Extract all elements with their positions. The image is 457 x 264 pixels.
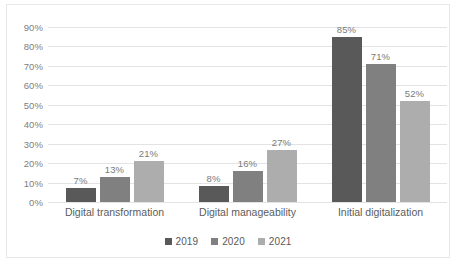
bar-value-label: 52% bbox=[405, 88, 424, 99]
legend-label: 2020 bbox=[222, 236, 245, 247]
x-axis-category-label: Digital manageability bbox=[199, 206, 296, 218]
chart-container: 90%80%70%60%50%40%30%20%10%0% 7%13%21%Di… bbox=[6, 4, 450, 258]
bar-item[interactable]: 21% bbox=[134, 27, 164, 202]
y-axis-tick-label: 60% bbox=[24, 80, 43, 91]
x-axis-category-label: Digital transformation bbox=[65, 206, 164, 218]
legend-item[interactable]: 2020 bbox=[211, 236, 245, 247]
bar[interactable] bbox=[199, 186, 229, 202]
bar[interactable] bbox=[134, 161, 164, 202]
bar-value-label: 8% bbox=[207, 173, 221, 184]
chart-legend: 201920202021 bbox=[7, 236, 449, 247]
bar-group: 85%71%52%Initial digitalization bbox=[314, 27, 447, 202]
y-axis-tick-label: 70% bbox=[24, 60, 43, 71]
legend-swatch-icon bbox=[211, 238, 218, 245]
bar-value-label: 85% bbox=[337, 24, 356, 35]
y-axis-tick-label: 0% bbox=[29, 197, 43, 208]
legend-label: 2019 bbox=[176, 236, 199, 247]
y-axis-tick-label: 30% bbox=[24, 138, 43, 149]
bar-item[interactable]: 27% bbox=[267, 27, 297, 202]
y-axis-tick-label: 50% bbox=[24, 99, 43, 110]
bar[interactable] bbox=[66, 188, 96, 202]
bar[interactable] bbox=[332, 37, 362, 202]
bar-value-label: 13% bbox=[105, 164, 124, 175]
bar-item[interactable]: 52% bbox=[400, 27, 430, 202]
bar-item[interactable]: 85% bbox=[332, 27, 362, 202]
legend-item[interactable]: 2019 bbox=[165, 236, 199, 247]
bar-item[interactable]: 13% bbox=[100, 27, 130, 202]
y-axis-tick-label: 40% bbox=[24, 119, 43, 130]
bar-value-label: 21% bbox=[139, 148, 158, 159]
bar[interactable] bbox=[233, 171, 263, 202]
bar[interactable] bbox=[400, 101, 430, 202]
x-axis-category-label: Initial digitalization bbox=[338, 206, 423, 218]
bar-item[interactable]: 71% bbox=[366, 27, 396, 202]
legend-label: 2021 bbox=[269, 236, 292, 247]
bar-value-label: 16% bbox=[238, 158, 257, 169]
bar-group: 8%16%27%Digital manageability bbox=[181, 27, 314, 202]
bar-item[interactable]: 7% bbox=[66, 27, 96, 202]
bar[interactable] bbox=[366, 64, 396, 202]
bar-value-label: 71% bbox=[371, 51, 390, 62]
legend-swatch-icon bbox=[165, 238, 172, 245]
y-axis-tick-label: 90% bbox=[24, 22, 43, 33]
bar-value-label: 27% bbox=[272, 137, 291, 148]
gridline bbox=[48, 202, 447, 203]
y-axis-tick-label: 80% bbox=[24, 41, 43, 52]
y-axis-tick-label: 20% bbox=[24, 158, 43, 169]
y-axis-tick-label: 10% bbox=[24, 177, 43, 188]
bar-item[interactable]: 8% bbox=[199, 27, 229, 202]
bar[interactable] bbox=[267, 150, 297, 203]
legend-swatch-icon bbox=[258, 238, 265, 245]
bar[interactable] bbox=[100, 177, 130, 202]
plot-area: 90%80%70%60%50%40%30%20%10%0% 7%13%21%Di… bbox=[48, 27, 447, 202]
bar-group: 7%13%21%Digital transformation bbox=[48, 27, 181, 202]
legend-item[interactable]: 2021 bbox=[258, 236, 292, 247]
bar-value-label: 7% bbox=[74, 175, 88, 186]
bar-item[interactable]: 16% bbox=[233, 27, 263, 202]
